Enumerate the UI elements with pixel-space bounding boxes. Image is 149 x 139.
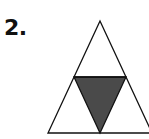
shaded-center-triangle — [74, 77, 126, 133]
triangle-figure — [0, 0, 149, 139]
